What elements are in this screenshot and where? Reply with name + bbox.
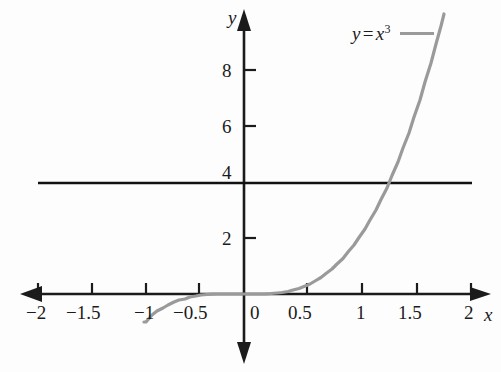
- x-tick-label-1.5: 1.5: [398, 303, 422, 322]
- y-axis-label: y: [228, 8, 236, 27]
- y-axis-bottom-arrowhead: [237, 342, 251, 364]
- x-tick-label-2: 2: [464, 303, 474, 322]
- cubic-curve: [144, 14, 444, 322]
- y-tick-marks: [244, 70, 256, 238]
- x-axis-label: x: [484, 305, 492, 324]
- x-tick-label--0.5: −0.5: [173, 303, 207, 322]
- y-tick-label-6: 6: [222, 117, 232, 136]
- x-tick-label-0: 0: [250, 303, 260, 322]
- y-tick-label-2: 2: [222, 229, 232, 248]
- y-axis-top-arrowhead: [237, 9, 251, 31]
- x-tick-label-1: 1: [356, 303, 366, 322]
- y-tick-label-4: 4: [222, 163, 232, 182]
- legend-label: y=x3: [352, 24, 391, 43]
- legend: y=x3: [352, 24, 434, 43]
- legend-line-swatch: [400, 32, 434, 35]
- x-tick-label--1: −1: [134, 303, 154, 322]
- y-axis-group: [237, 9, 251, 364]
- x-tick-label-0.5: 0.5: [288, 303, 312, 322]
- x-axis-right-arrowhead: [470, 287, 491, 301]
- legend-lhs: y: [352, 23, 361, 44]
- x-tick-label--2: −2: [26, 303, 46, 322]
- legend-exponent: 3: [384, 22, 390, 36]
- y-tick-label-8: 8: [222, 61, 232, 80]
- legend-equals: =: [361, 23, 376, 44]
- x-tick-label--1.5: −1.5: [66, 303, 100, 322]
- figure-root: −2 −1.5 −1 −0.5 0 0.5 1 1.5 2 8 6 4 2 x …: [0, 0, 501, 372]
